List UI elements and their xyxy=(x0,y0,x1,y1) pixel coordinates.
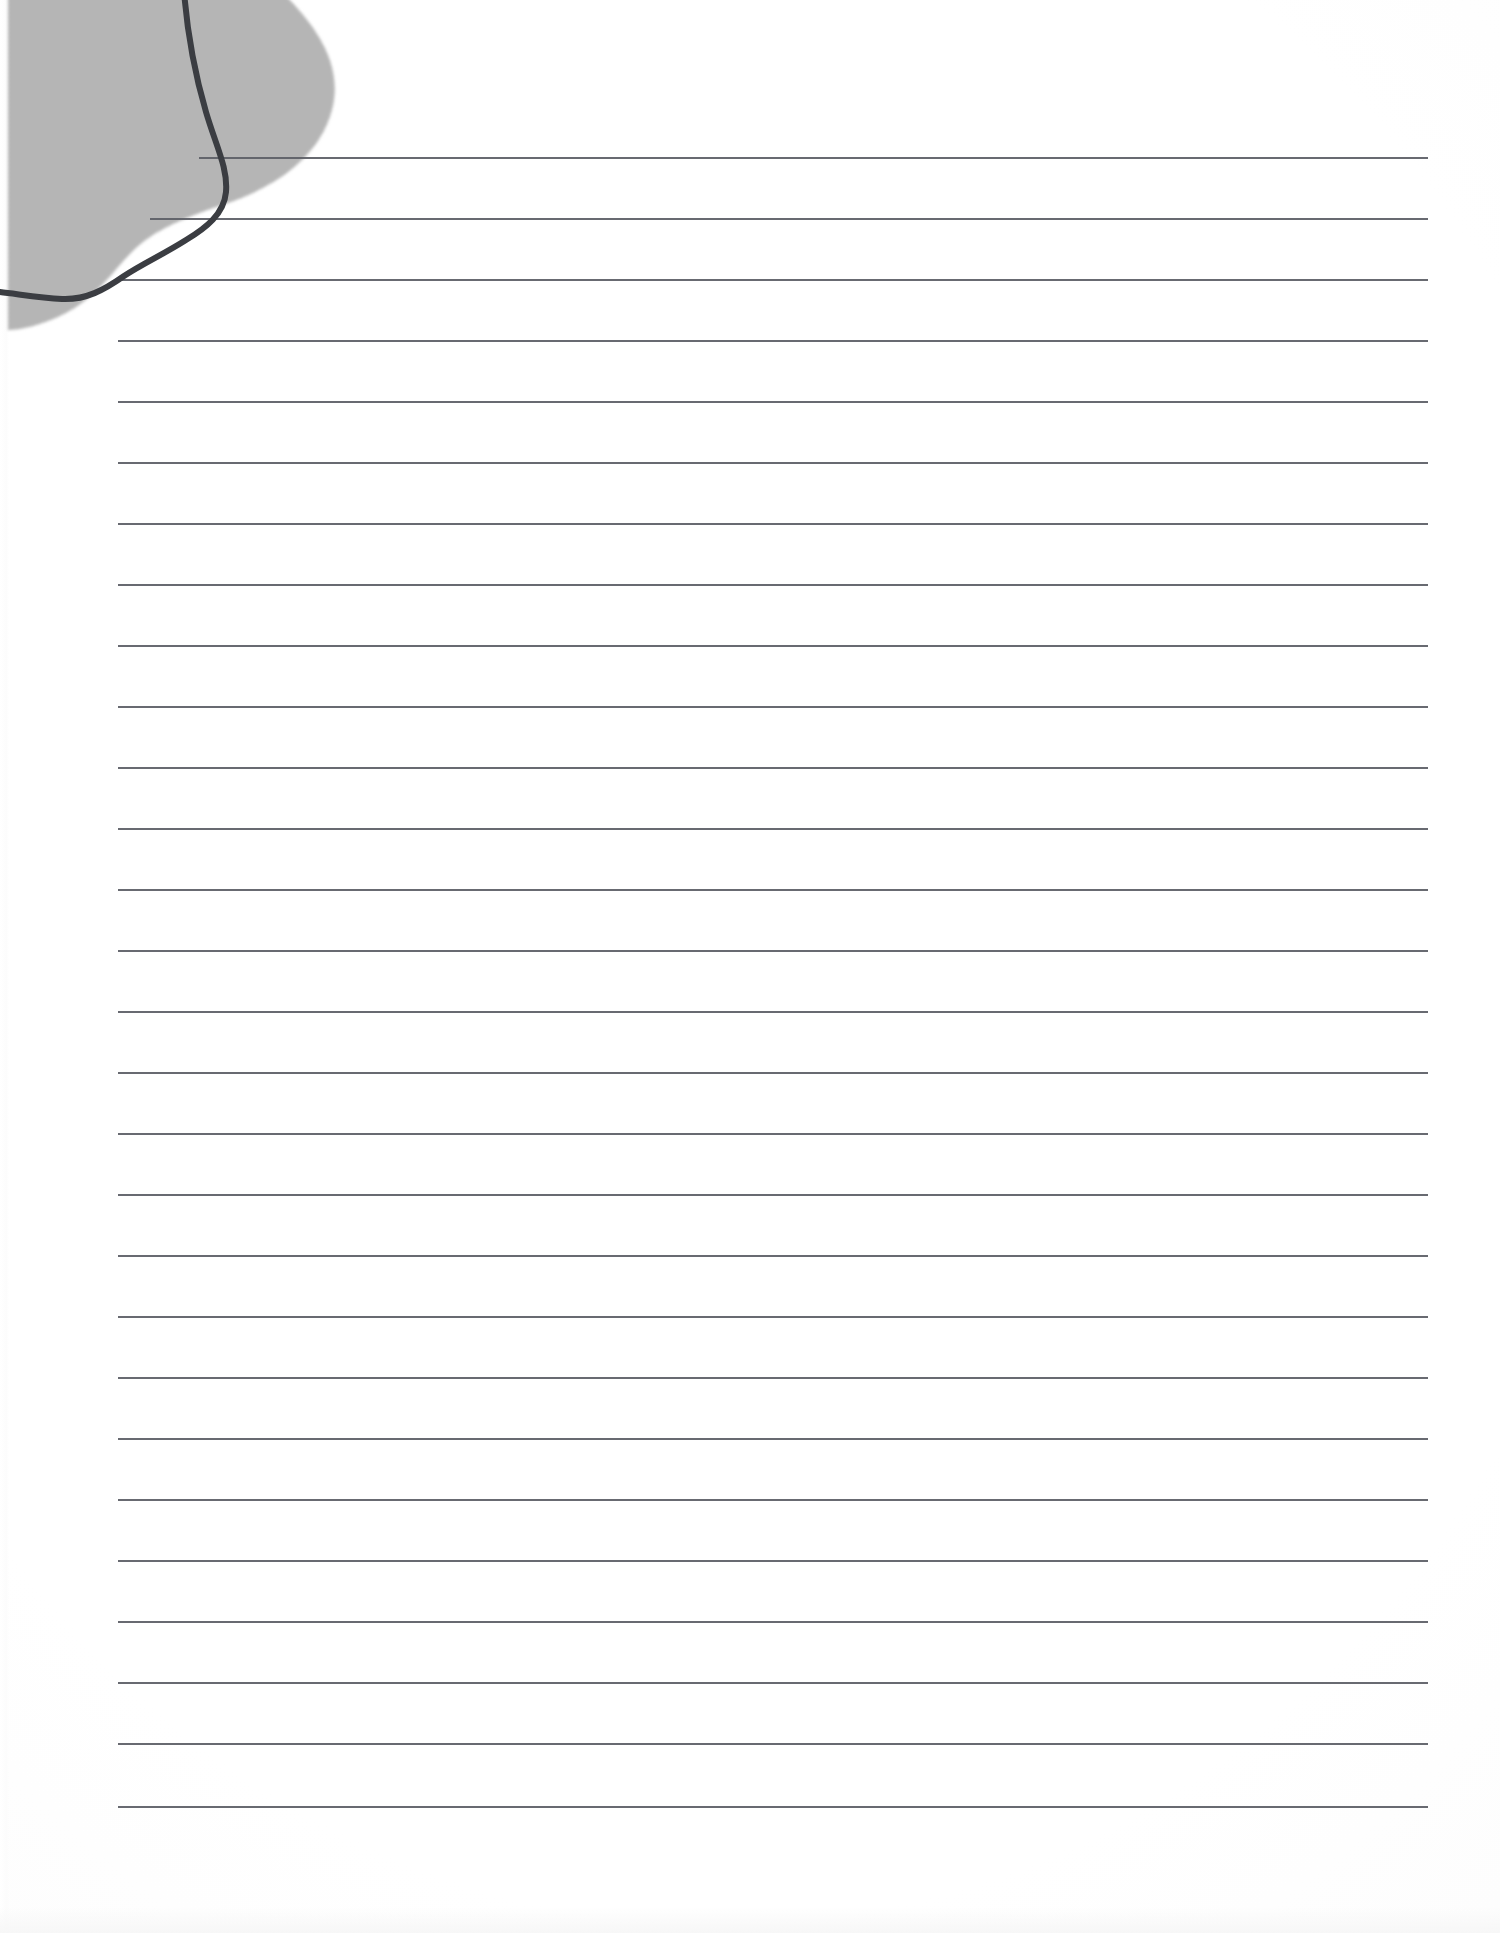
ruled-line xyxy=(118,1194,1428,1196)
ruled-line xyxy=(118,1499,1428,1501)
ruled-line xyxy=(118,1621,1428,1623)
ruled-line xyxy=(118,645,1428,647)
ruled-line xyxy=(118,523,1428,525)
ruled-line xyxy=(118,767,1428,769)
ruled-line xyxy=(118,1743,1428,1745)
ruled-line xyxy=(150,218,1428,220)
ruled-line xyxy=(118,1316,1428,1318)
ruled-line xyxy=(118,1255,1428,1257)
ruled-line xyxy=(118,1806,1428,1808)
ruled-line xyxy=(118,401,1428,403)
scanned-page xyxy=(0,0,1500,1933)
ruled-lines-group xyxy=(0,0,1500,1933)
ruled-line xyxy=(118,1377,1428,1379)
ruled-line xyxy=(118,889,1428,891)
ruled-line xyxy=(118,340,1428,342)
ruled-line xyxy=(118,1072,1428,1074)
ruled-line xyxy=(118,1682,1428,1684)
ruled-line xyxy=(118,1133,1428,1135)
ruled-line xyxy=(199,157,1428,159)
ruled-line xyxy=(118,1011,1428,1013)
ruled-line xyxy=(118,1438,1428,1440)
ruled-line xyxy=(118,706,1428,708)
ruled-line xyxy=(118,462,1428,464)
ruled-line xyxy=(118,584,1428,586)
ruled-line xyxy=(118,279,1428,281)
ruled-line xyxy=(118,828,1428,830)
ruled-line xyxy=(118,950,1428,952)
ruled-line xyxy=(118,1560,1428,1562)
